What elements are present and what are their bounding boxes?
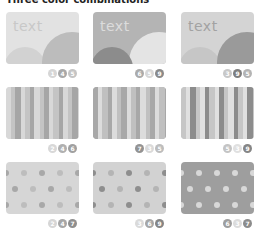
polka-dot xyxy=(6,170,9,176)
large-circle-shape xyxy=(129,32,166,64)
polka-dot xyxy=(93,170,96,176)
color-badge: 6 xyxy=(68,144,77,153)
polka-dot xyxy=(75,170,79,176)
polka-dot xyxy=(39,170,45,176)
color-badge: 4 xyxy=(58,69,67,78)
combination-card-circles: text xyxy=(181,12,254,64)
large-circle-shape xyxy=(217,32,254,64)
polka-dot xyxy=(181,202,184,208)
color-badge: 9 xyxy=(233,69,242,78)
polka-dot xyxy=(57,202,63,208)
polka-dot xyxy=(126,202,132,208)
color-badge: 7 xyxy=(243,219,252,228)
polka-dot xyxy=(39,202,45,208)
color-badge: 4 xyxy=(58,219,67,228)
polka-dot xyxy=(241,186,247,192)
color-number-badges: 247 xyxy=(48,219,77,229)
color-badge: 6 xyxy=(145,219,154,228)
combination-card-circles: text xyxy=(93,12,166,64)
color-badge: 7 xyxy=(135,144,144,153)
polka-dot xyxy=(66,186,72,192)
combination-card-dots xyxy=(6,162,79,214)
combination-card-stripes xyxy=(181,87,254,139)
polka-dot xyxy=(187,186,193,192)
small-circle-shape xyxy=(93,47,133,64)
polka-dot xyxy=(214,170,220,176)
color-number-badges: 637 xyxy=(223,219,252,229)
color-badge: 2 xyxy=(48,144,57,153)
polka-dot xyxy=(6,202,9,208)
color-badge: 3 xyxy=(135,219,144,228)
color-badge: 3 xyxy=(233,219,242,228)
color-badge: 3 xyxy=(145,144,154,153)
polka-dot xyxy=(196,202,202,208)
color-number-badges: 246 xyxy=(48,144,77,154)
polka-dot xyxy=(144,202,150,208)
card-sample-text: text xyxy=(13,18,43,34)
color-badge: 2 xyxy=(48,219,57,228)
color-badge: 3 xyxy=(233,144,242,153)
color-badge: 6 xyxy=(223,219,232,228)
color-badge: 5 xyxy=(68,69,77,78)
color-number-badges: 145 xyxy=(48,69,77,79)
color-badge: 4 xyxy=(58,144,67,153)
color-badge: 3 xyxy=(223,69,232,78)
color-badge: 5 xyxy=(155,144,164,153)
polka-dot xyxy=(250,202,254,208)
stripe xyxy=(165,87,166,139)
polka-dot xyxy=(57,170,63,176)
stripe xyxy=(253,87,254,139)
polka-dot xyxy=(99,186,105,192)
polka-dot xyxy=(75,202,79,208)
color-number-badges: 659 xyxy=(135,69,164,79)
card-sample-text: text xyxy=(188,18,218,34)
color-badge: 5 xyxy=(223,144,232,153)
combination-card-circles: text xyxy=(6,12,79,64)
polka-dot xyxy=(162,202,166,208)
polka-dot xyxy=(21,170,27,176)
color-badge: 7 xyxy=(68,219,77,228)
large-circle-shape xyxy=(42,32,79,64)
color-number-badges: 369 xyxy=(135,219,164,229)
polka-dot xyxy=(93,202,96,208)
color-number-badges: 735 xyxy=(135,144,164,154)
polka-dot xyxy=(205,186,211,192)
polka-dot xyxy=(162,170,166,176)
combination-card-dots xyxy=(93,162,166,214)
polka-dot xyxy=(196,170,202,176)
color-badge: 5 xyxy=(145,69,154,78)
color-badge: 9 xyxy=(243,144,252,153)
polka-dot xyxy=(232,170,238,176)
polka-dot xyxy=(250,170,254,176)
stripe xyxy=(78,87,79,139)
color-badge: 9 xyxy=(155,69,164,78)
combination-card-stripes xyxy=(6,87,79,139)
polka-dot xyxy=(181,170,184,176)
color-number-badges: 395 xyxy=(223,69,252,79)
combination-card-dots xyxy=(181,162,254,214)
color-badge: 5 xyxy=(243,69,252,78)
polka-dot xyxy=(117,186,123,192)
polka-dot xyxy=(232,202,238,208)
color-badge: 6 xyxy=(135,69,144,78)
color-badge: 9 xyxy=(155,219,164,228)
color-number-badges: 539 xyxy=(223,144,252,154)
polka-dot xyxy=(30,186,36,192)
polka-dot xyxy=(135,186,141,192)
polka-dot xyxy=(223,186,229,192)
polka-dot xyxy=(108,170,114,176)
polka-dot xyxy=(144,170,150,176)
page-title: Three color combinations xyxy=(6,0,149,5)
small-circle-shape xyxy=(181,47,221,64)
polka-dot xyxy=(48,186,54,192)
color-badge: 1 xyxy=(48,69,57,78)
polka-dot xyxy=(108,202,114,208)
small-circle-shape xyxy=(6,47,46,64)
polka-dot xyxy=(153,186,159,192)
polka-dot xyxy=(21,202,27,208)
combination-card-stripes xyxy=(93,87,166,139)
polka-dot xyxy=(214,202,220,208)
card-sample-text: text xyxy=(100,18,130,34)
polka-dot xyxy=(126,170,132,176)
polka-dot xyxy=(12,186,18,192)
